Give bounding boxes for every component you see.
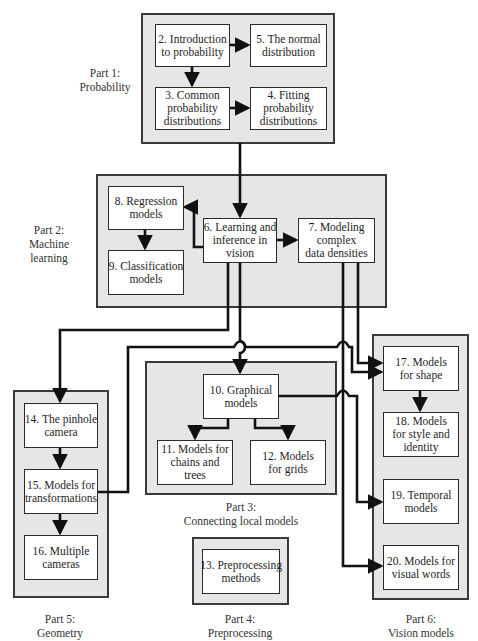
- node-text: for grids: [268, 463, 307, 476]
- part5-label: Part 5: Geometry: [20, 612, 100, 640]
- part6-label: Part 6: Vision models: [375, 612, 467, 640]
- part-label-text: Connecting local models: [181, 514, 301, 528]
- node-text: 18. Models: [395, 415, 447, 428]
- node-text: chains and: [171, 456, 220, 469]
- node-text: camera: [44, 426, 77, 439]
- node-text: 4. Fitting: [267, 89, 309, 102]
- node-text: for style and: [392, 428, 449, 441]
- part4-label: Part 4: Preprocessing: [200, 612, 280, 640]
- node-2-introduction-to-probability: 2. Introduction to probability: [155, 24, 230, 67]
- node-text: 14. The pinhole: [25, 413, 97, 426]
- node-text: probability: [167, 102, 217, 115]
- part1-label: Part 1: Probability: [74, 66, 136, 94]
- node-16-multiple-cameras: 16. Multiple cameras: [24, 535, 98, 580]
- part-label-text: Machine: [18, 237, 80, 251]
- node-6-learning-and-inference: 6. Learning and inference in vision: [203, 218, 277, 263]
- node-text: probability: [263, 102, 313, 115]
- node-text: models: [129, 208, 162, 221]
- node-text: 2. Introduction: [158, 33, 226, 46]
- node-17-models-for-shape: 17. Models for shape: [383, 346, 459, 391]
- node-9-classification-models: 9. Classification models: [108, 250, 184, 295]
- node-text: 15. Models for: [27, 479, 95, 492]
- node-20-models-for-visual-words: 20. Models for visual words: [383, 545, 459, 590]
- part-label-text: Preprocessing: [200, 626, 280, 640]
- part-label-text: Geometry: [20, 626, 100, 640]
- node-11-models-for-chains-and-trees: 11. Models for chains and trees: [157, 440, 233, 485]
- node-19-temporal-models: 19. Temporal models: [383, 479, 459, 524]
- node-14-pinhole-camera: 14. The pinhole camera: [24, 403, 98, 448]
- node-text: distributions: [260, 115, 318, 128]
- node-text: 11. Models for: [161, 443, 229, 456]
- node-15-models-for-transformations: 15. Models for transformations: [24, 469, 98, 514]
- node-text: visual words: [392, 568, 450, 581]
- part-label-text: Part 3:: [181, 500, 301, 514]
- node-text: 8. Regression: [115, 195, 178, 208]
- node-text: trees: [184, 469, 206, 482]
- node-text: to probability: [161, 46, 223, 59]
- node-text: 17. Models: [395, 356, 447, 369]
- node-text: vision: [226, 247, 254, 260]
- node-text: 3. Common: [165, 89, 219, 102]
- node-12-models-for-grids: 12. Models for grids: [250, 440, 326, 485]
- node-text: data densities: [305, 247, 367, 260]
- node-text: 16. Multiple: [33, 545, 90, 558]
- part-label-text: Part 4:: [200, 612, 280, 626]
- part-label-text: Part 6:: [375, 612, 467, 626]
- node-10-graphical-models: 10. Graphical models: [203, 374, 279, 419]
- node-text: distribution: [262, 46, 315, 59]
- part3-label: Part 3: Connecting local models: [181, 500, 301, 528]
- node-text: complex: [317, 234, 357, 247]
- node-text: 5. The normal: [256, 33, 321, 46]
- node-text: identity: [403, 441, 438, 454]
- part-label-text: Probability: [74, 80, 136, 94]
- part-label-text: Vision models: [375, 626, 467, 640]
- node-text: 6. Learning and: [204, 221, 277, 234]
- node-7-modeling-complex-data-densities: 7. Modeling complex data densities: [298, 218, 375, 263]
- node-text: models: [404, 502, 437, 515]
- node-4-fitting-probability-distributions: 4. Fitting probability distributions: [250, 87, 327, 130]
- node-text: transformations: [25, 492, 97, 505]
- node-text: models: [129, 273, 162, 286]
- part-label-text: learning: [18, 251, 80, 265]
- node-text: 10. Graphical: [210, 384, 273, 397]
- node-8-regression-models: 8. Regression models: [108, 186, 184, 230]
- node-text: 20. Models for: [387, 555, 455, 568]
- node-text: 7. Modeling: [308, 221, 364, 234]
- node-text: 19. Temporal: [391, 489, 452, 502]
- node-text: 9. Classification: [109, 260, 184, 273]
- node-text: inference in: [213, 234, 268, 247]
- node-text: for shape: [400, 369, 442, 382]
- node-text: cameras: [42, 558, 80, 571]
- node-3-common-probability-distributions: 3. Common probability distributions: [155, 87, 230, 130]
- node-18-models-for-style-and-identity: 18. Models for style and identity: [383, 412, 459, 457]
- node-text: distributions: [164, 115, 222, 128]
- node-text: 13. Preprocessing: [200, 559, 282, 572]
- node-text: 12. Models: [262, 450, 314, 463]
- part2-label: Part 2: Machine learning: [18, 223, 80, 265]
- part-label-text: Part 1:: [74, 66, 136, 80]
- node-text: methods: [222, 572, 261, 585]
- node-text: models: [224, 397, 257, 410]
- node-5-normal-distribution: 5. The normal distribution: [250, 24, 327, 67]
- part-label-text: Part 5:: [20, 612, 100, 626]
- node-13-preprocessing-methods: 13. Preprocessing methods: [202, 549, 280, 594]
- part-label-text: Part 2:: [18, 223, 80, 237]
